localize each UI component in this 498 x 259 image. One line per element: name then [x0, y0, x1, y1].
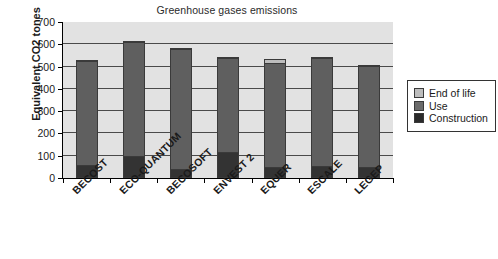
bar-segment-use	[218, 58, 238, 153]
y-axis-tick	[58, 133, 63, 134]
x-axis-tick	[393, 178, 394, 183]
use-swatch	[414, 101, 424, 111]
y-axis-tick-label: 600	[37, 39, 55, 50]
legend-label: End of life	[429, 88, 476, 99]
y-axis-tick	[58, 89, 63, 90]
x-axis-tick	[252, 178, 253, 183]
x-axis-tick	[346, 178, 347, 183]
y-axis-tick	[58, 111, 63, 112]
legend-item[interactable]: Construction	[414, 113, 488, 124]
y-axis-tick-label: 0	[49, 173, 55, 184]
y-axis-tick-label: 100	[37, 150, 55, 161]
bar-segment-use	[265, 63, 285, 168]
x-axis-tick	[157, 178, 158, 183]
legend-item[interactable]: Use	[414, 101, 488, 112]
stacked-bar[interactable]	[170, 48, 192, 178]
chart-title: Greenhouse gases emissions	[62, 4, 392, 16]
bar-group[interactable]	[358, 22, 380, 178]
stacked-bar[interactable]	[76, 60, 98, 178]
y-axis-tick	[58, 67, 63, 68]
y-axis-tick	[58, 44, 63, 45]
stacked-bar[interactable]	[311, 57, 333, 178]
x-axis-tick	[299, 178, 300, 183]
end-of-life-swatch	[414, 88, 424, 98]
bar-segment-use	[124, 42, 144, 157]
stacked-bar[interactable]	[217, 57, 239, 178]
y-axis-tick-label: 400	[37, 84, 55, 95]
legend-label: Use	[429, 101, 448, 112]
bar-group[interactable]	[264, 22, 286, 178]
legend-item[interactable]: End of life	[414, 88, 488, 99]
y-axis-tick	[58, 156, 63, 157]
x-axis-tick	[204, 178, 205, 183]
stacked-bar[interactable]	[264, 59, 286, 178]
bar-group[interactable]	[170, 22, 192, 178]
y-axis-tick	[58, 22, 63, 23]
y-axis-tick-label: 200	[37, 128, 55, 139]
bar-group[interactable]	[311, 22, 333, 178]
y-axis-tick-label: 500	[37, 61, 55, 72]
greenhouse-gas-emissions-chart: Greenhouse gases emissions Equivalent CO…	[0, 0, 498, 259]
bar-group[interactable]	[123, 22, 145, 178]
bar-segment-use	[77, 61, 97, 166]
bar-segment-use	[312, 58, 332, 168]
chart-legend: End of lifeUseConstruction	[407, 80, 496, 132]
x-axis-tick	[110, 178, 111, 183]
plot-area: 0100200300400500600700	[62, 22, 393, 179]
x-axis-tick	[63, 178, 64, 183]
y-axis-tick-label: 300	[37, 106, 55, 117]
y-axis-tick-label: 700	[37, 17, 55, 28]
bar-segment-use	[171, 49, 191, 171]
bar-segment-use	[359, 66, 379, 168]
bar-group[interactable]	[217, 22, 239, 178]
stacked-bar[interactable]	[123, 41, 145, 178]
bar-group[interactable]	[76, 22, 98, 178]
construction-swatch	[414, 113, 424, 123]
legend-label: Construction	[429, 113, 488, 124]
